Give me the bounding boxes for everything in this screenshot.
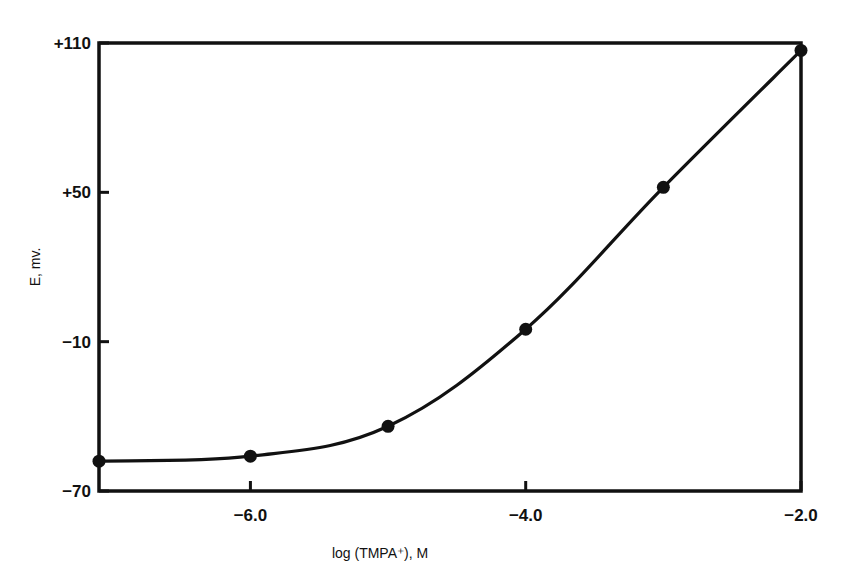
plot-frame [99,43,801,491]
y-tick-label: +50 [62,183,91,202]
data-point-marker [93,455,106,468]
chart: +110+50−10−70 −6.0−4.0−2.0 log (TMPA⁺), … [0,0,845,588]
y-axis-title: E, mv. [27,248,43,287]
data-point-marker [519,323,532,336]
data-point-marker [795,44,808,57]
x-axis-title: log (TMPA⁺), M [332,545,428,561]
y-tick-label: +110 [54,34,91,53]
y-tick-label: −10 [62,333,91,352]
x-tick-label: −2.0 [784,506,818,525]
plot-border [99,43,801,491]
data-points [93,44,808,468]
x-axis-ticks: −6.0−4.0−2.0 [234,481,818,525]
data-curve [99,50,801,461]
data-point-marker [382,420,395,433]
x-tick-label: −4.0 [509,506,543,525]
y-tick-label: −70 [62,482,91,501]
data-point-marker [657,181,670,194]
data-point-marker [244,450,257,463]
x-tick-label: −6.0 [234,506,268,525]
